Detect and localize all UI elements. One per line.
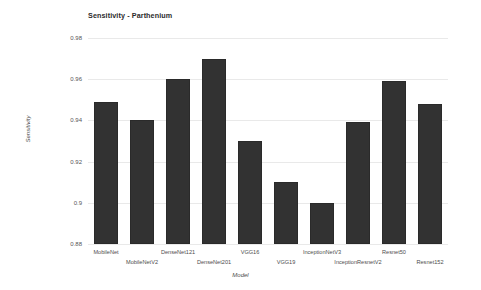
x-axis-tick-label: Resnet50	[382, 249, 406, 255]
bar[interactable]	[130, 120, 154, 244]
x-axis-tick-label: DenseNet201	[197, 259, 231, 265]
x-axis-tick-label: DenseNet121	[161, 249, 195, 255]
x-axis-tick-label: Resnet152	[416, 259, 443, 265]
x-axis-tick-label: VGG19	[277, 259, 296, 265]
bar[interactable]	[382, 81, 406, 244]
y-axis-tick-label: 0.96	[52, 76, 82, 82]
gridline	[88, 79, 448, 80]
x-axis-tick-label: InceptionResnetV2	[334, 259, 381, 265]
bar[interactable]	[274, 182, 298, 244]
bar[interactable]	[94, 102, 118, 244]
gridline	[88, 244, 448, 245]
y-axis-tick-label: 0.94	[52, 117, 82, 123]
y-axis-tick-label: 0.88	[52, 241, 82, 247]
y-axis-tick-label: 0.92	[52, 158, 82, 164]
bar[interactable]	[346, 122, 370, 244]
x-axis-tick-label: MobileNetV2	[126, 259, 158, 265]
y-axis-label: Sensitivity	[25, 99, 31, 159]
x-axis-tick-label: VGG16	[241, 249, 260, 255]
bar[interactable]	[418, 104, 442, 244]
gridline	[88, 38, 448, 39]
bar[interactable]	[166, 79, 190, 244]
bar[interactable]	[202, 59, 226, 244]
bar[interactable]	[310, 203, 334, 244]
x-axis-tick-label: InceptionNetV3	[303, 249, 341, 255]
y-axis-tick-label: 0.9	[52, 199, 82, 205]
bar[interactable]	[238, 141, 262, 244]
plot-area: 0.980.960.940.920.90.88	[88, 38, 448, 244]
x-axis-label: Model	[0, 272, 481, 278]
y-axis-tick-label: 0.98	[52, 35, 82, 41]
chart-container: Sensitivity - Parthenium Sensitivity 0.9…	[0, 0, 481, 290]
x-axis-tick-label: MobileNet	[93, 249, 118, 255]
chart-title: Sensitivity - Parthenium	[88, 11, 172, 20]
